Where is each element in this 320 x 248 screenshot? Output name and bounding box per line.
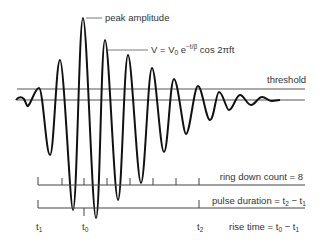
acoustic-emission-diagram: peak amplitude V = V0 e−t/β cos 2πft thr… (0, 0, 320, 248)
decaying-waveform (16, 18, 280, 218)
formula-label: V = V0 e−t/β cos 2πft (151, 43, 235, 56)
pulse-duration-label: pulse duration = t2 − t1 (212, 195, 306, 207)
peak-amplitude-label: peak amplitude (105, 12, 169, 23)
t2-label: t2 (197, 221, 204, 233)
ring-down-label: ring down count = 8 (220, 171, 303, 182)
t0-label: t0 (82, 221, 89, 233)
t1-label: t1 (36, 221, 43, 233)
threshold-label: threshold (267, 74, 306, 85)
rise-time-label: rise time = t0 − t1 (229, 221, 299, 233)
